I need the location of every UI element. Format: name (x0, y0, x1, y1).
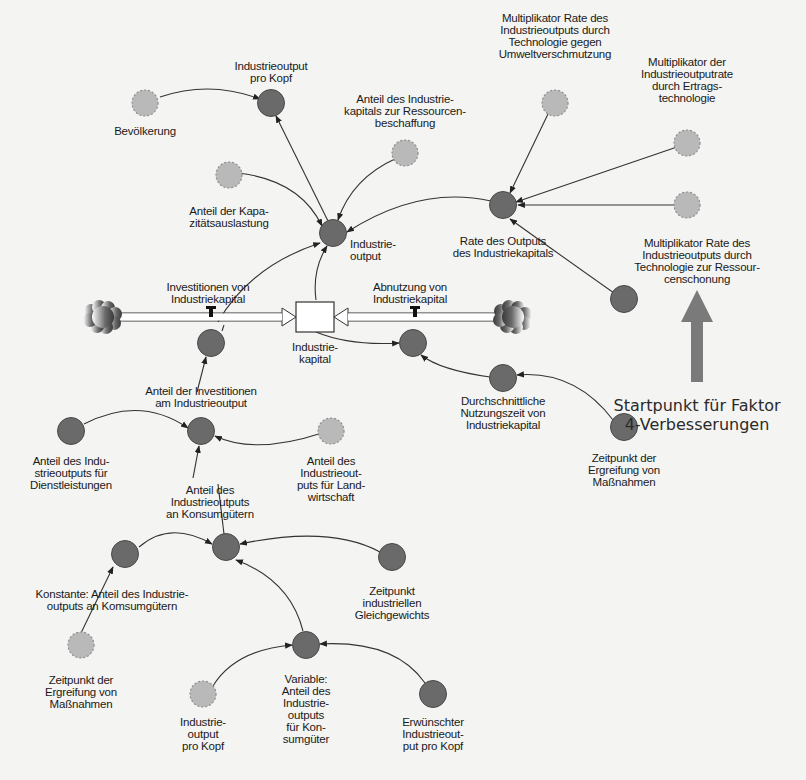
node-mult_ressourcen (611, 286, 638, 313)
flow-investitionen (120, 306, 296, 326)
causal-link (510, 114, 548, 193)
node-abnutzung_aux (400, 330, 427, 357)
node-io_pro_kopf_2-label: Industrie- output pro Kopf (180, 716, 226, 752)
node-anteil_kapital_ressourcen-label: Anteil des Industrie- kapitals zur Resso… (344, 93, 466, 129)
node-nutzungszeit-label: Durchschnittliche Nutzungszeit von Indus… (460, 395, 545, 431)
stock-industriekapital-label: Industrie- kapital (292, 341, 338, 365)
node-zeitpunkt_gleichgewicht (379, 544, 406, 571)
node-industrieoutput (320, 220, 347, 247)
node-bevoelkerung-label: Bevölkerung (114, 125, 176, 137)
causal-link (240, 536, 380, 552)
causal-link (160, 89, 260, 99)
causal-link (347, 197, 491, 232)
node-erwuenschter_io (420, 681, 447, 708)
node-variable_konsum (293, 632, 320, 659)
sink-cloud-icon (493, 300, 532, 334)
factor-four-callout: Startpunkt für Faktor 4-Verbesserungen (613, 396, 780, 434)
node-investitionen_aux (198, 330, 225, 357)
node-io_pro_kopf-label: Industrieoutput pro Kopf (234, 60, 307, 84)
node-nutzungszeit (490, 365, 517, 392)
causal-link (516, 147, 677, 202)
flow-abnutzung-label: Abnutzung von Industriekapital (373, 281, 447, 305)
node-io_pro_kopf (258, 90, 285, 117)
node-kapazitaet-label: Anteil der Kapa- zitätsauslastung (189, 205, 268, 229)
flow-abnutzung (334, 306, 497, 326)
node-anteil_investitionen-label: Anteil der Investitionen am Industrieout… (145, 385, 257, 409)
node-zeitpunkt_massnahmen_r-label: Zeitpunkt der Ergreifung von Maßnahmen (588, 452, 660, 488)
causal-link (276, 116, 328, 221)
callout-arrow (681, 290, 713, 382)
causal-link (213, 645, 292, 686)
causal-link (315, 246, 327, 300)
node-anteil_landwirtschaft (318, 418, 344, 444)
node-mult_umwelt-label: Multiplikator Rate des Industrieoutputs … (499, 12, 612, 60)
source-cloud-icon (83, 300, 122, 334)
node-anteil_konsumgueter (213, 534, 240, 561)
node-anteil_investitionen (188, 418, 215, 445)
node-bevoelkerung (132, 90, 158, 116)
node-mult_ertrag-label: Multiplikator der Industrieoutputrate du… (641, 56, 733, 104)
up-arrow-icon (681, 290, 713, 382)
flow-investitionen-label: Investitionen von Industriekapital (167, 281, 250, 305)
node-industrieoutput-label: Industrie- output (350, 238, 396, 262)
causal-link (139, 533, 212, 547)
causal-link (236, 560, 303, 631)
stock-industriekapital (296, 302, 334, 332)
node-rate_output-label: Rate des Outputs des Industriekapitals (453, 235, 554, 259)
node-konstante-label: Konstante: Anteil des Industrie- outputs… (36, 588, 189, 612)
causal-link (421, 355, 490, 377)
node-variable_konsum-label: Variable: Anteil des Industrie- outputs … (282, 673, 331, 745)
node-anteil_konsumgueter-label: Anteil des Industrieoutputs an Konsumgüt… (166, 484, 254, 520)
node-zeitpunkt_massnahmen_l (68, 632, 94, 658)
node-kapazitaet (216, 162, 242, 188)
node-mult_ertrag (674, 130, 700, 156)
node-io_pro_kopf_2 (190, 681, 216, 707)
node-anteil_dienstleistungen (58, 418, 85, 445)
node-zeitpunkt_massnahmen_l-label: Zeitpunkt der Ergreifung von Maßnahmen (45, 674, 117, 710)
causal-link (84, 410, 188, 428)
node-anteil_kapital_ressourcen (392, 140, 418, 166)
causal-link (215, 433, 322, 445)
node-anteil_landwirtschaft-label: Anteil des Industrieout- puts für Land- … (297, 455, 365, 503)
node-zeitpunkt_gleichgewicht-label: Zeitpunkt industriellen Gleichgewichts (355, 585, 430, 621)
node-rate_output (490, 192, 517, 219)
node-mult_umwelt (542, 90, 568, 116)
node-mult_ressourcen-label: Multiplikator Rate des Industrieoutputs … (634, 237, 760, 285)
stock-flow-diagram: Investitionen von IndustriekapitalAbnutz… (0, 0, 806, 780)
node-konstante (112, 541, 139, 568)
causal-link (222, 325, 224, 331)
node-mult_ressourcen_ext (674, 192, 700, 218)
node-erwuenschter_io-label: Erwünschter Industrieout- put pro Kopf (402, 716, 464, 752)
causal-link (193, 446, 199, 478)
causal-link (320, 644, 425, 683)
node-anteil_dienstleistungen-label: Anteil des Indu- strieoutputs für Dienst… (30, 455, 112, 491)
